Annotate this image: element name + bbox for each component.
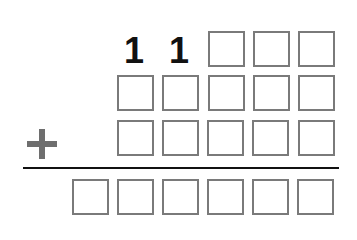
given-digit-2: 1 [161, 36, 197, 66]
plus-icon [27, 129, 57, 159]
sum-box-5[interactable] [252, 179, 289, 215]
sum-box-6[interactable] [297, 179, 334, 215]
addend3-box-3[interactable] [207, 120, 244, 156]
addend3-box-5[interactable] [298, 120, 335, 156]
addend1-box-3[interactable] [208, 31, 245, 67]
addend2-box-5[interactable] [298, 75, 335, 111]
sum-box-4[interactable] [207, 179, 244, 215]
addend1-box-5[interactable] [298, 31, 335, 67]
addend3-box-1[interactable] [117, 120, 154, 156]
addend2-box-2[interactable] [162, 75, 199, 111]
sum-box-2[interactable] [117, 179, 154, 215]
addend3-box-4[interactable] [252, 120, 289, 156]
addend2-box-4[interactable] [253, 75, 290, 111]
addend3-box-2[interactable] [162, 120, 199, 156]
addend2-box-3[interactable] [208, 75, 245, 111]
sum-line [23, 167, 339, 169]
given-digit-1: 1 [116, 36, 152, 66]
sum-box-1[interactable] [72, 179, 109, 215]
addend1-box-4[interactable] [253, 31, 290, 67]
addend2-box-1[interactable] [117, 75, 154, 111]
sum-box-3[interactable] [162, 179, 199, 215]
